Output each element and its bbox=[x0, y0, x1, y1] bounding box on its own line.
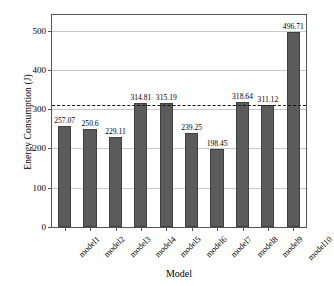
bar bbox=[109, 137, 122, 227]
bar-value-label: 198.45 bbox=[207, 139, 228, 148]
y-axis-tick-label: 0 bbox=[42, 222, 47, 232]
bar bbox=[236, 102, 249, 227]
x-axis-tick-label: model1 bbox=[76, 234, 101, 259]
x-axis-tick-label: model2 bbox=[102, 234, 127, 259]
bar bbox=[160, 103, 173, 227]
x-axis-tick-mark bbox=[65, 227, 66, 231]
bar-value-label: 311.12 bbox=[258, 95, 279, 104]
bar-value-label: 257.07 bbox=[54, 116, 75, 125]
bar-value-label: 314.81 bbox=[130, 93, 151, 102]
bar-value-label: 496.71 bbox=[283, 22, 304, 31]
x-axis-title: Model bbox=[51, 268, 307, 279]
x-axis-tick-label: model4 bbox=[152, 234, 177, 259]
x-axis-tick-label: model10 bbox=[306, 234, 334, 262]
y-axis-tick-label: 400 bbox=[33, 65, 47, 75]
x-axis-tick-mark bbox=[116, 227, 117, 231]
bar-value-label: 318.64 bbox=[232, 92, 253, 101]
bar-value-label: 250.6 bbox=[82, 119, 99, 128]
bar bbox=[210, 149, 223, 227]
y-axis-tick-mark bbox=[48, 70, 52, 71]
x-axis-tick-label: model6 bbox=[203, 234, 228, 259]
x-axis-tick-mark bbox=[293, 227, 294, 231]
y-axis-tick-mark bbox=[48, 109, 52, 110]
y-axis-tick-label: 500 bbox=[33, 26, 47, 36]
x-axis-tick-mark bbox=[166, 227, 167, 231]
y-axis-tick-mark bbox=[48, 188, 52, 189]
x-axis-tick-label: model7 bbox=[229, 234, 254, 259]
plot-area: 0100200300400500257.07model1250.6model22… bbox=[51, 14, 307, 228]
y-axis-tick-mark bbox=[48, 227, 52, 228]
bar-value-label: 229.11 bbox=[105, 127, 126, 136]
bar-value-label: 239.25 bbox=[181, 123, 202, 132]
bar bbox=[261, 105, 274, 227]
x-axis-tick-label: model5 bbox=[178, 234, 203, 259]
mean-reference-line bbox=[52, 105, 306, 106]
x-axis-tick-mark bbox=[217, 227, 218, 231]
x-axis-tick-mark bbox=[192, 227, 193, 231]
y-axis-tick-mark bbox=[48, 31, 52, 32]
bar bbox=[134, 103, 147, 227]
x-axis-tick-mark bbox=[243, 227, 244, 231]
y-axis-title: Energy Consumption (J) bbox=[23, 32, 33, 212]
gridline bbox=[52, 31, 306, 32]
bar bbox=[287, 32, 300, 227]
x-axis-tick-mark bbox=[90, 227, 91, 231]
x-axis-tick-mark bbox=[268, 227, 269, 231]
y-axis-tick-label: 300 bbox=[33, 104, 47, 114]
x-axis-tick-label: model9 bbox=[279, 234, 304, 259]
gridline bbox=[52, 70, 306, 71]
bar bbox=[58, 126, 71, 227]
bar bbox=[83, 129, 96, 227]
y-axis-tick-label: 200 bbox=[33, 143, 47, 153]
y-axis-tick-label: 100 bbox=[33, 183, 47, 193]
bar bbox=[185, 133, 198, 227]
x-axis-tick-mark bbox=[141, 227, 142, 231]
x-axis-tick-label: model3 bbox=[127, 234, 152, 259]
bar-value-label: 315.19 bbox=[156, 93, 177, 102]
x-axis-tick-label: model8 bbox=[254, 234, 279, 259]
y-axis-tick-mark bbox=[48, 148, 52, 149]
